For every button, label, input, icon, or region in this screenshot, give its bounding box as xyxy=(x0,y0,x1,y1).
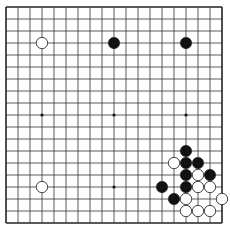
white-stone[interactable] xyxy=(204,181,215,192)
black-stone[interactable] xyxy=(180,157,191,168)
black-stone[interactable] xyxy=(192,157,203,168)
black-stone[interactable] xyxy=(180,181,191,192)
star-point xyxy=(184,113,187,116)
black-stone[interactable] xyxy=(108,37,119,48)
white-stone[interactable] xyxy=(168,157,179,168)
white-stone[interactable] xyxy=(36,181,47,192)
star-point xyxy=(112,113,115,116)
white-stone[interactable] xyxy=(36,37,47,48)
black-stone[interactable] xyxy=(156,181,167,192)
black-stone[interactable] xyxy=(168,193,179,204)
black-stone[interactable] xyxy=(180,169,191,180)
white-stone[interactable] xyxy=(204,205,215,216)
white-stone[interactable] xyxy=(180,193,191,204)
black-stone[interactable] xyxy=(180,37,191,48)
star-point xyxy=(40,113,43,116)
go-board[interactable] xyxy=(0,0,230,239)
black-stone[interactable] xyxy=(204,169,215,180)
star-point xyxy=(112,185,115,188)
white-stone[interactable] xyxy=(192,169,203,180)
white-stone[interactable] xyxy=(216,193,227,204)
white-stone[interactable] xyxy=(180,205,191,216)
white-stone[interactable] xyxy=(192,205,203,216)
white-stone[interactable] xyxy=(192,181,203,192)
black-stone[interactable] xyxy=(180,145,191,156)
